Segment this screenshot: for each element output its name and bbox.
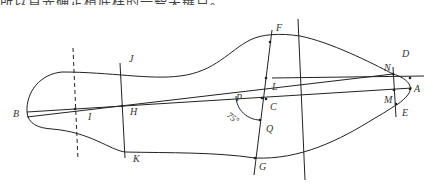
label-b: B bbox=[13, 108, 19, 119]
shoe-last-diagram: B I H J K F L P C Q G D N A M E 75° bbox=[0, 0, 433, 189]
insole-outline bbox=[27, 34, 410, 158]
line-ba bbox=[27, 88, 412, 112]
label-i: I bbox=[87, 111, 92, 122]
label-d: D bbox=[401, 48, 410, 59]
label-g: G bbox=[259, 161, 266, 172]
label-k: K bbox=[132, 153, 141, 164]
label-h: H bbox=[129, 106, 138, 117]
line-bd bbox=[27, 74, 393, 117]
dashed-line bbox=[73, 48, 78, 160]
label-j: J bbox=[129, 53, 134, 64]
label-m: M bbox=[383, 94, 393, 105]
label-f: F bbox=[275, 22, 283, 33]
label-q: Q bbox=[266, 123, 274, 134]
line-jk bbox=[120, 63, 125, 158]
label-n: N bbox=[383, 62, 392, 73]
label-c: C bbox=[270, 101, 277, 112]
label-a: A bbox=[413, 83, 421, 94]
label-p: P bbox=[235, 92, 242, 103]
angle-label: 75° bbox=[225, 110, 241, 126]
label-l: L bbox=[271, 81, 278, 92]
label-e: E bbox=[401, 107, 408, 118]
line-vertical-mid bbox=[298, 19, 305, 180]
